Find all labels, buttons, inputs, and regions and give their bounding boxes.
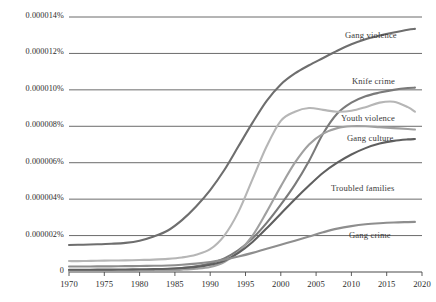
x-tick-label: 1995 — [230, 279, 262, 289]
y-tick-label: 0.000004% — [26, 193, 64, 202]
x-tick-label: 1975 — [88, 279, 120, 289]
x-tick-label: 1970 — [53, 279, 85, 289]
x-tick-label: 2015 — [371, 279, 403, 289]
series-label-gang-crime: Gang crime — [349, 230, 391, 240]
y-tick-label: 0.000002% — [26, 230, 64, 239]
y-tick-label: 0.000010% — [26, 84, 64, 93]
y-tick-label: 0.000012% — [26, 47, 64, 56]
x-tick-label: 2000 — [265, 279, 297, 289]
y-tick-label: 0.000008% — [26, 120, 64, 129]
series-label-knife-crime: Knife crime — [352, 76, 395, 86]
series-label-youth-violence: Youth violence — [341, 113, 395, 123]
y-tick-label: 0.000006% — [26, 157, 64, 166]
x-tick-label: 1985 — [159, 279, 191, 289]
x-tick-label: 2010 — [335, 279, 367, 289]
series-label-gang-culture: Gang culture — [347, 133, 393, 143]
y-tick-label: 0 — [60, 266, 64, 275]
series-label-troubled-families: Troubled families — [331, 183, 395, 193]
x-tick-label: 1990 — [194, 279, 226, 289]
x-tick-label: 2005 — [300, 279, 332, 289]
series-label-gang-violence: Gang violence — [345, 30, 397, 40]
y-tick-label: 0.000014% — [26, 11, 64, 20]
x-tick-label: 2020 — [406, 279, 436, 289]
x-tick-label: 1980 — [124, 279, 156, 289]
